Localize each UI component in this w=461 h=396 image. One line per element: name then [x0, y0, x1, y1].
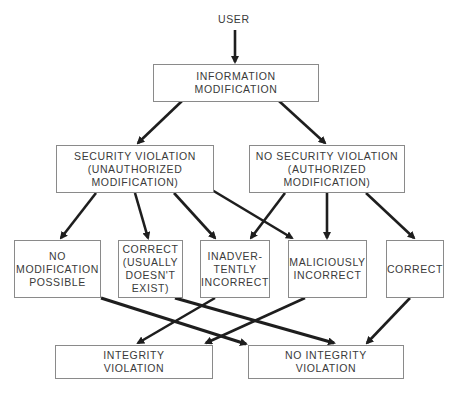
node-correct-usually-doesnt-exist: CORRECT (USUALLY DOESN'T EXIST)	[118, 240, 183, 298]
user-label: USER	[218, 13, 250, 25]
arrow-info-to-nosec	[279, 101, 325, 143]
node-maliciously-incorrect: MALICIOUSLY INCORRECT	[288, 240, 367, 298]
arrow-correct-to-nointegrity	[367, 298, 410, 343]
node-no-modification-possible: NO MODIFICATION POSSIBLE	[14, 240, 101, 298]
node-integrity-violation: INTEGRITY VIOLATION	[55, 345, 213, 379]
node-inadvertently-incorrect: INADVER- TENTLY INCORRECT	[200, 240, 270, 298]
arrow-sec-to-correct-usually	[135, 193, 148, 238]
arrow-nosec-to-correct	[366, 193, 414, 238]
node-information-modification: INFORMATION MODIFICATION	[153, 64, 319, 102]
node-no-integrity-violation: NO INTEGRITY VIOLATION	[248, 345, 404, 379]
arrow-sec-to-nomod	[61, 193, 96, 238]
connector-arrows	[0, 0, 461, 396]
arrow-sec-to-maliciously	[212, 190, 292, 238]
node-security-violation: SECURITY VIOLATION (UNAUTHORIZED MODIFIC…	[56, 145, 214, 193]
node-no-security-violation: NO SECURITY VIOLATION (AUTHORIZED MODIFI…	[249, 145, 405, 193]
node-correct: CORRECT	[386, 240, 444, 298]
integrity-flow-diagram: USER INFORMATION MODIFICATION SECURITY V…	[0, 0, 461, 396]
arrow-maliciously-to-integrity	[206, 298, 305, 343]
arrow-sec-to-inadvertently	[174, 193, 215, 238]
arrow-info-to-sec	[138, 101, 182, 143]
arrow-inadvertently-to-integrity	[138, 298, 215, 343]
